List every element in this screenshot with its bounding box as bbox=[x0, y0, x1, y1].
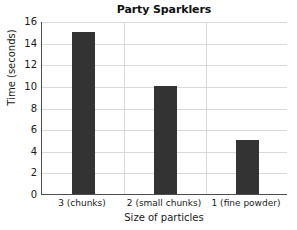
chart-figure: Party Sparklers 0246810121416 Time (seco… bbox=[0, 0, 297, 230]
bar-1 bbox=[154, 86, 177, 194]
y-tick-label-6: 6 bbox=[3, 125, 37, 135]
gridline-y-16 bbox=[42, 22, 287, 23]
gridline-category-2 bbox=[206, 22, 207, 194]
bar-2 bbox=[236, 140, 259, 194]
x-axis-tick-labels: 3 (chunks)2 (small chunks)1 (fine powder… bbox=[41, 198, 287, 212]
x-tick-label-2: 1 (fine powder) bbox=[205, 198, 287, 209]
x-tick-label-1: 2 (small chunks) bbox=[123, 198, 205, 209]
y-tick-label-4: 4 bbox=[3, 147, 37, 157]
y-tick-label-0: 0 bbox=[3, 190, 37, 200]
x-axis-label: Size of particles bbox=[41, 212, 287, 223]
x-tick-label-0: 3 (chunks) bbox=[41, 198, 123, 209]
bar-0 bbox=[72, 32, 95, 194]
chart-title: Party Sparklers bbox=[41, 3, 287, 16]
y-tick-label-2: 2 bbox=[3, 168, 37, 178]
gridline-category-1 bbox=[124, 22, 125, 194]
plot-area bbox=[41, 22, 287, 195]
y-axis-label: Time (seconds) bbox=[6, 18, 17, 118]
